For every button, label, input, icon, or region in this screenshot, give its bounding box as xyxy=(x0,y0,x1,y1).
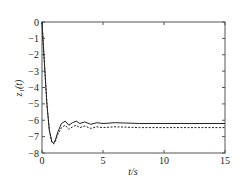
plot-border xyxy=(42,22,225,153)
y-tick-label: −8 xyxy=(28,148,39,159)
y-axis-label: z₁(t) xyxy=(13,79,25,97)
y-tick-label: −1 xyxy=(28,33,39,44)
y-tick-label: −3 xyxy=(28,66,39,77)
x-tick-label: 15 xyxy=(220,155,230,166)
x-tick-label: 10 xyxy=(159,155,169,166)
x-axis-ticks: 051015 xyxy=(40,22,231,166)
plot-frame xyxy=(42,22,225,153)
line-chart: 0−1−2−3−4−5−6−7−8 051015 t/s z₁(t) xyxy=(0,0,241,185)
series-solid-line xyxy=(42,22,225,143)
y-tick-label: 0 xyxy=(34,17,39,28)
x-tick-label: 0 xyxy=(40,155,45,166)
y-tick-label: −4 xyxy=(28,82,39,93)
series-dashed-line xyxy=(42,22,225,144)
x-axis-label: t/s xyxy=(128,166,138,177)
y-axis-ticks: 0−1−2−3−4−5−6−7−8 xyxy=(28,17,225,159)
y-tick-label: −6 xyxy=(28,115,39,126)
series-group xyxy=(42,22,225,144)
y-tick-label: −2 xyxy=(28,49,39,60)
x-tick-label: 5 xyxy=(101,155,106,166)
y-tick-label: −5 xyxy=(28,98,39,109)
y-tick-label: −7 xyxy=(28,131,39,142)
